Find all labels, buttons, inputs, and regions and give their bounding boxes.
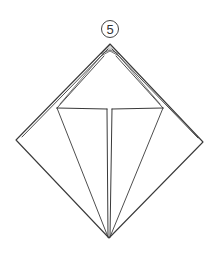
flap-line-right [110,108,163,237]
origami-fold-diagram [0,0,220,260]
flap-line-left [57,108,108,237]
outer-edge [16,44,203,238]
inner-edge-right-2 [116,56,163,108]
inner-edge-left-1 [22,49,108,137]
horizontal-crease-left [57,108,107,109]
inner-edge-right-1 [112,49,198,138]
inner-edge-left-2 [57,56,104,108]
horizontal-crease-right [112,108,163,109]
center-line-right [110,109,112,237]
top-tip-fill [101,45,119,54]
center-line-left [107,109,108,237]
